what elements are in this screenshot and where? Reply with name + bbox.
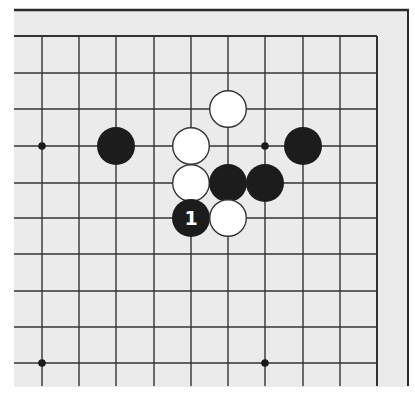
white-stone-shape	[210, 200, 247, 237]
white-stone-shape	[173, 165, 210, 202]
black-stone-shape	[284, 127, 322, 165]
black-stone	[97, 127, 135, 165]
black-stone-shape	[246, 164, 284, 202]
star-point	[38, 359, 46, 367]
black-stone-shape	[209, 164, 247, 202]
star-point	[261, 359, 269, 367]
black-stone: 1	[172, 199, 210, 237]
go-board: 1	[0, 0, 415, 396]
star-point	[261, 142, 269, 150]
star-point	[38, 142, 46, 150]
white-stone-shape	[173, 128, 210, 165]
black-stone-shape	[97, 127, 135, 165]
white-stone	[173, 128, 210, 165]
white-stone-shape	[210, 91, 247, 128]
move-number-label: 1	[184, 207, 197, 229]
board-surface	[14, 10, 409, 387]
board-background	[14, 10, 409, 387]
black-stone	[284, 127, 322, 165]
black-stone	[209, 164, 247, 202]
white-stone	[210, 200, 247, 237]
black-stone	[246, 164, 284, 202]
white-stone	[173, 165, 210, 202]
white-stone	[210, 91, 247, 128]
